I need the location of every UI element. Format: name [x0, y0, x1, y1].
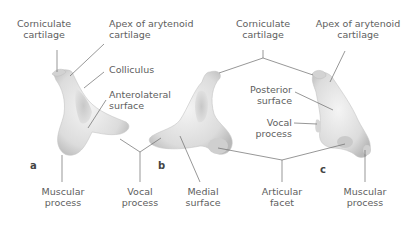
- label-line: Vocal: [240, 117, 292, 128]
- label-c-posterior-surface: Posterior surface: [240, 84, 292, 106]
- label-vocal-process-ab: Vocal process: [114, 186, 166, 208]
- panel-letter-a: a: [30, 160, 37, 171]
- label-line: surface: [109, 100, 171, 111]
- panel-letter-b: b: [158, 160, 165, 171]
- label-line: Posterior: [240, 84, 292, 95]
- label-line: Medial: [178, 186, 228, 197]
- label-line: Corniculate: [228, 18, 298, 29]
- label-corniculate-cartilage-bc: Corniculate cartilage: [228, 18, 298, 40]
- label-articular-facet: Articular facet: [256, 186, 308, 208]
- label-a-colliculus: Colliculus: [109, 64, 154, 75]
- label-line: Muscular: [337, 186, 393, 197]
- label-c-vocal-process: Vocal process: [240, 117, 292, 139]
- label-line: cartilage: [109, 29, 193, 40]
- label-line: process: [35, 197, 91, 208]
- label-line: facet: [256, 197, 308, 208]
- arytenoid-a: [52, 69, 129, 155]
- label-line: Vocal: [114, 186, 166, 197]
- label-line: Corniculate: [6, 18, 82, 29]
- label-c-apex-of-arytenoid-cartilage: Apex of arytenoid cartilage: [310, 18, 406, 40]
- label-b-medial-surface: Medial surface: [178, 186, 228, 208]
- label-line: Apex of arytenoid: [109, 18, 193, 29]
- label-a-apex-of-arytenoid-cartilage: Apex of arytenoid cartilage: [109, 18, 193, 40]
- label-line: Anterolateral: [109, 89, 171, 100]
- arytenoid-c: [312, 70, 371, 157]
- label-line: Apex of arytenoid: [310, 18, 406, 29]
- label-a-corniculate-cartilage: Corniculate cartilage: [6, 18, 82, 40]
- label-line: Colliculus: [109, 64, 154, 75]
- label-line: Muscular: [35, 186, 91, 197]
- label-line: surface: [240, 95, 292, 106]
- panel-letter-c: c: [320, 164, 326, 175]
- label-a-anterolateral-surface: Anterolateral surface: [109, 89, 171, 111]
- label-line: process: [240, 128, 292, 139]
- label-line: cartilage: [310, 29, 406, 40]
- label-line: Articular: [256, 186, 308, 197]
- label-c-muscular-process: Muscular process: [337, 186, 393, 208]
- label-a-muscular-process: Muscular process: [35, 186, 91, 208]
- label-line: process: [114, 197, 166, 208]
- arytenoid-b: [149, 71, 232, 154]
- label-line: process: [337, 197, 393, 208]
- label-line: cartilage: [6, 29, 82, 40]
- label-line: surface: [178, 197, 228, 208]
- label-line: cartilage: [228, 29, 298, 40]
